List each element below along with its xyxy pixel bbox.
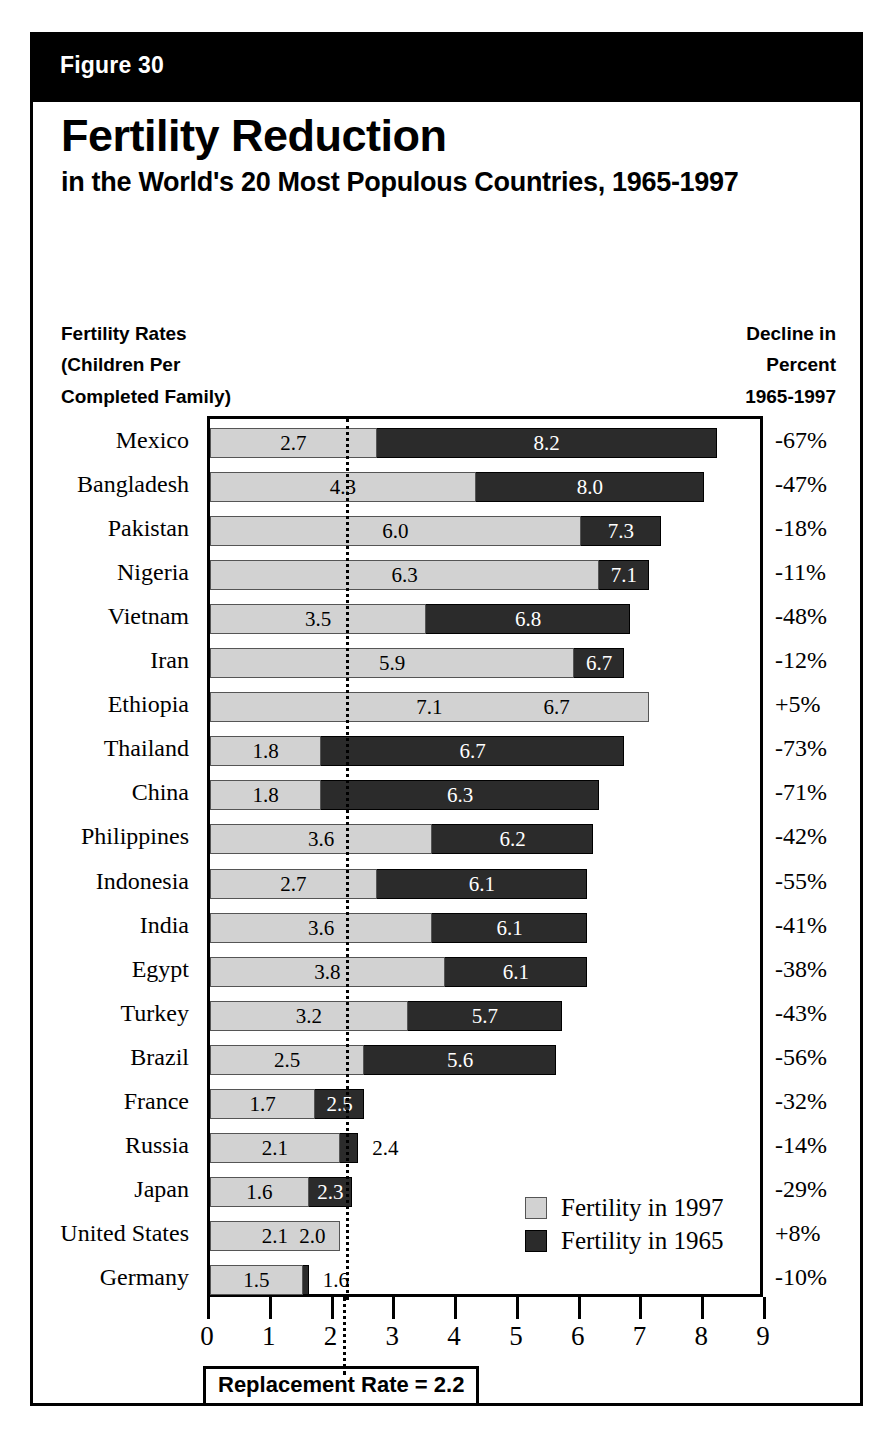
x-axis-tick <box>454 1297 457 1319</box>
value-label-1965: 5.6 <box>364 1045 556 1075</box>
bar-row: 1.86.7 <box>210 736 684 766</box>
value-label-1997: 6.3 <box>210 560 599 590</box>
country-label: Turkey <box>121 998 189 1028</box>
bars-container: 2.78.24.38.06.07.36.37.13.56.85.96.77.16… <box>210 419 760 1294</box>
country-label: Nigeria <box>117 557 189 587</box>
replacement-rate-note: Replacement Rate = 2.2 <box>203 1366 479 1406</box>
value-label-1997: 1.6 <box>210 1177 309 1207</box>
value-label-1965: 6.1 <box>432 913 586 943</box>
chart-legend: Fertility in 1997Fertility in 1965 <box>525 1191 724 1257</box>
decline-percent-label: -18% <box>775 513 827 543</box>
value-label-1997: 1.8 <box>210 780 321 810</box>
value-label-1997: 4.3 <box>210 472 476 502</box>
country-label: India <box>140 910 189 940</box>
country-label: Indonesia <box>96 866 189 896</box>
country-label: Mexico <box>116 425 189 455</box>
bar-row: 3.25.7 <box>210 1001 622 1031</box>
value-label-1965: 2.5 <box>315 1089 364 1119</box>
decline-percent-label: -38% <box>775 954 827 984</box>
right-caption-line-1: Percent <box>745 349 836 380</box>
legend-entry: Fertility in 1997 <box>525 1191 724 1224</box>
value-label-1965: 2.0 <box>285 1221 339 1251</box>
country-label: Russia <box>125 1130 189 1160</box>
decline-percent-label: -14% <box>775 1130 827 1160</box>
country-label: Bangladesh <box>77 469 189 499</box>
value-label-1997: 3.6 <box>210 824 432 854</box>
country-label: Brazil <box>130 1042 189 1072</box>
figure-frame: Figure 30 Fertility Reduction in the Wor… <box>30 32 863 1406</box>
decline-percent-label: -71% <box>775 777 827 807</box>
bar-row: 6.07.3 <box>210 516 721 546</box>
bar-row: 3.66.1 <box>210 913 647 943</box>
x-axis-tick-label: 9 <box>743 1321 783 1352</box>
decline-percent-label: -32% <box>775 1086 827 1116</box>
bar-row: 2.55.6 <box>210 1045 616 1075</box>
value-label-1965: 6.7 <box>321 736 624 766</box>
decline-percent-label: -73% <box>775 733 827 763</box>
value-label-1965: 6.1 <box>445 957 587 987</box>
x-axis-tick-label: 0 <box>187 1321 227 1352</box>
decline-percent-label: -12% <box>775 645 827 675</box>
bar-row: 3.66.2 <box>210 824 653 854</box>
country-label: Egypt <box>132 954 189 984</box>
right-caption-line-0: Decline in <box>745 318 836 349</box>
country-label: Germany <box>100 1262 189 1292</box>
figure-subtitle: in the World's 20 Most Populous Countrie… <box>61 165 761 200</box>
bar-row: 1.72.5 <box>210 1089 424 1119</box>
x-axis-tick <box>516 1297 519 1319</box>
x-axis-tick-label: 3 <box>372 1321 412 1352</box>
decline-percent-label: -55% <box>775 866 827 896</box>
decline-percent-label: +5% <box>775 689 821 719</box>
value-label-1997: 6.0 <box>210 516 581 546</box>
value-label-1965: 2.4 <box>362 1133 408 1163</box>
decline-percent-label: -11% <box>775 557 826 587</box>
right-column-caption: Decline inPercent1965-1997 <box>745 318 836 412</box>
value-label-1997: 3.5 <box>210 604 426 634</box>
legend-label: Fertility in 1997 <box>561 1194 724 1222</box>
bar-row: 5.96.7 <box>210 648 684 678</box>
legend-swatch-fertility-1965 <box>525 1230 547 1252</box>
decline-percent-label: -43% <box>775 998 827 1028</box>
value-label-1997: 1.7 <box>210 1089 315 1119</box>
value-label-1965: 6.3 <box>321 780 599 810</box>
bar-row: 2.76.1 <box>210 869 647 899</box>
country-label: France <box>124 1086 189 1116</box>
value-label-1965: 1.6 <box>313 1265 359 1295</box>
value-label-1965: 6.8 <box>426 604 630 634</box>
decline-percent-label: -41% <box>775 910 827 940</box>
decline-percent-label: -29% <box>775 1174 827 1204</box>
bar-row: 2.12.4 <box>210 1133 418 1163</box>
bar-row: 6.37.1 <box>210 560 709 590</box>
value-label-1965: 7.1 <box>599 560 648 590</box>
x-axis-tick-label: 8 <box>681 1321 721 1352</box>
country-label: Pakistan <box>108 513 189 543</box>
country-label: Japan <box>134 1174 189 1204</box>
value-label-1965: 5.7 <box>408 1001 562 1031</box>
legend-entry: Fertility in 1965 <box>525 1224 724 1257</box>
value-label-1997: 2.7 <box>210 428 377 458</box>
figure-number-label: Figure 30 <box>60 52 164 79</box>
value-label-1997: 2.7 <box>210 869 377 899</box>
bar-row: 3.86.1 <box>210 957 647 987</box>
x-axis-tick <box>269 1297 272 1319</box>
legend-swatch-fertility-1997 <box>525 1197 547 1219</box>
right-caption-line-2: 1965-1997 <box>745 381 836 412</box>
value-label-1965: 6.7 <box>574 648 623 678</box>
value-label-1965: 6.1 <box>377 869 587 899</box>
country-label: Vietnam <box>108 601 189 631</box>
x-axis-tick-label: 6 <box>558 1321 598 1352</box>
plot-area: 2.78.24.38.06.07.36.37.13.56.85.96.77.16… <box>207 416 763 1297</box>
x-axis-tick <box>639 1297 642 1319</box>
country-label: China <box>132 777 189 807</box>
bar-row: 1.62.3 <box>210 1177 412 1207</box>
value-label-1965: 8.2 <box>377 428 717 458</box>
decline-percent-label: -48% <box>775 601 827 631</box>
decline-percent-label: -10% <box>775 1262 827 1292</box>
country-label: Thailand <box>104 733 189 763</box>
decline-percent-label: -56% <box>775 1042 827 1072</box>
x-axis-tick <box>763 1297 766 1319</box>
figure-title: Fertility Reduction <box>61 113 447 158</box>
left-caption-line-0: Fertility Rates <box>61 318 231 349</box>
x-axis-tick <box>578 1297 581 1319</box>
legend-label: Fertility in 1965 <box>561 1227 724 1255</box>
